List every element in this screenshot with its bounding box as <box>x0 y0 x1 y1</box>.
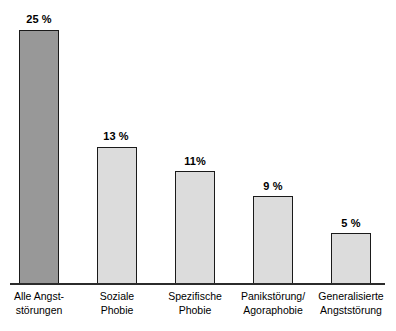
category-label-line-2: Angststörung <box>305 304 396 318</box>
bar-value-label-5: 5 % <box>306 217 396 229</box>
bar-value-label-2: 13 % <box>71 130 161 142</box>
bar-chart: 25 % 13 % 11% 9 % 5 % Alle Angst- störun… <box>0 0 396 331</box>
bar-value-label-3: 11% <box>150 155 240 167</box>
bar-spezifische-phobie <box>175 171 215 284</box>
bar-alle-angststoerungen <box>19 30 59 284</box>
plot-area: 25 % 13 % 11% 9 % 5 % <box>0 0 396 284</box>
bar-value-label-4: 9 % <box>228 180 318 192</box>
bar-panikstoerung-agoraphobie <box>253 196 293 284</box>
bar-soziale-phobie <box>97 147 137 284</box>
category-axis-labels: Alle Angst- störungen Soziale Phobie Spe… <box>0 290 396 331</box>
category-label-generalisierte-angststoerung: Generalisierte Angststörung <box>305 290 396 317</box>
bar-generalisierte-angststoerung <box>331 233 371 284</box>
bar-value-label-1: 25 % <box>0 13 84 25</box>
category-label-line-1: Generalisierte <box>305 290 396 304</box>
x-axis-baseline <box>10 283 385 285</box>
